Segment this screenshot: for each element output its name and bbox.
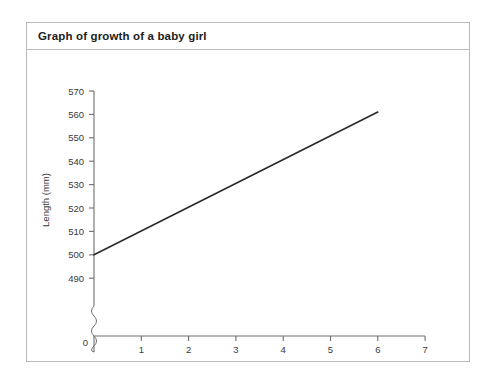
figure-title-bar: Graph of growth of a baby girl	[27, 23, 469, 50]
x-tick-label: 5	[328, 344, 333, 355]
x-tick-label: 6	[375, 344, 380, 355]
y-tick-label: 530	[68, 179, 84, 190]
y-tick-label: 570	[68, 86, 84, 97]
y-tick-label: 550	[68, 132, 84, 143]
y-tick-label: 560	[68, 109, 84, 120]
figure-frame: Graph of growth of a baby girl	[26, 22, 470, 362]
x-tick-label: 4	[281, 344, 286, 355]
y-tick-label: 540	[68, 156, 84, 167]
x-tick-label: 3	[233, 344, 238, 355]
y-tick-label: 520	[68, 203, 84, 214]
chart-svg: 570 560 550 540 530 520 510 500 490 0	[27, 50, 469, 361]
x-tick-label: 1	[139, 344, 144, 355]
x-tick-labels: 1 2 3 4 5 6 7	[139, 344, 428, 355]
plot-area: 570 560 550 540 530 520 510 500 490 0	[27, 50, 469, 361]
x-tick-label: 2	[186, 344, 191, 355]
origin-label: 0	[83, 337, 88, 348]
x-tick-label: 7	[422, 344, 427, 355]
y-tick-labels: 570 560 550 540 530 520 510 500 490	[68, 86, 84, 284]
y-tick-label: 490	[68, 273, 84, 284]
chart-title: Graph of growth of a baby girl	[38, 30, 207, 42]
y-axis-title: Length (mm)	[40, 173, 51, 227]
y-tick-label: 500	[68, 249, 84, 260]
data-series-line	[94, 112, 378, 255]
y-tick-label: 510	[68, 226, 84, 237]
y-tick-marks	[89, 91, 94, 278]
x-tick-marks	[141, 336, 425, 341]
